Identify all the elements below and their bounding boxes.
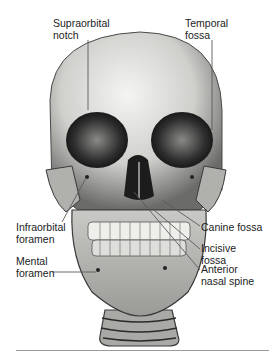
label-mental-foramen: Mental foramen	[16, 256, 55, 279]
skull-illustration	[0, 0, 269, 358]
label-infraorbital-foramen: Infraorbital foramen	[16, 222, 66, 245]
label-temporal-fossa: Temporal fossa	[185, 18, 228, 41]
label-canine-fossa: Canine fossa	[201, 222, 262, 234]
label-anterior-nasal-spine: Anterior nasal spine	[201, 264, 254, 287]
bottom-divider	[16, 350, 269, 351]
label-supraorbital-notch: Supraorbital notch	[53, 18, 110, 41]
